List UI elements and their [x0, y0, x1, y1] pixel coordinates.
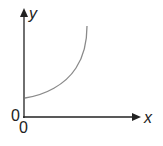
origin-label-x: 0: [19, 120, 28, 136]
y-axis-arrow-icon: [20, 8, 28, 17]
curve: [25, 26, 87, 98]
y-axis: [20, 8, 28, 118]
x-axis: [23, 113, 141, 121]
x-axis-label: x: [144, 110, 152, 126]
y-axis-label: y: [29, 6, 37, 22]
x-axis-arrow-icon: [132, 113, 141, 121]
